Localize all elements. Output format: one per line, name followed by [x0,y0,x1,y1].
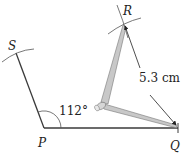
label-q: Q [170,139,180,153]
label-s: S [8,39,16,53]
label-p: P [37,136,47,150]
measurement-arrow-top [125,26,140,68]
angle-label: 112° [59,104,88,118]
compass-arm-lower [101,103,177,128]
label-r: R [122,4,132,18]
diagram-canvas: S R P Q 112° 5.3 cm [0,0,186,153]
line-ps [16,53,44,128]
length-label: 5.3 cm [139,71,181,85]
compass-arm-upper [101,25,126,104]
construction-diagram: S R P Q 112° 5.3 cm [0,0,186,153]
